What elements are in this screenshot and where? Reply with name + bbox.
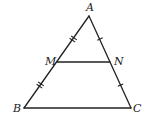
triangle-diagram [0, 0, 147, 120]
vertex-label-c: C [133, 103, 141, 114]
vertex-label-m: M [45, 56, 56, 67]
vertex-label-a: A [86, 2, 94, 13]
vertex-label-b: B [13, 103, 21, 114]
vertex-label-n: N [114, 56, 124, 67]
